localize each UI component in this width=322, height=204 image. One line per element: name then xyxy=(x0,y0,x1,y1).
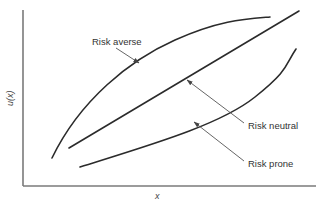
y-axis-label: u(x) xyxy=(5,90,15,106)
risk-averse-pointer xyxy=(116,48,139,63)
x-axis-label: x xyxy=(154,191,160,201)
risk-prone-pointer xyxy=(194,122,244,161)
utility-curves-figure: Risk averse Risk neutral Risk prone x u(… xyxy=(0,0,322,204)
risk-neutral-label: Risk neutral xyxy=(248,120,298,131)
risk-neutral-pointer xyxy=(187,80,244,123)
risk-averse-label: Risk averse xyxy=(92,36,142,47)
risk-prone-label: Risk prone xyxy=(248,158,293,169)
risk-averse-curve xyxy=(52,17,270,158)
risk-prone-curve xyxy=(80,49,296,167)
